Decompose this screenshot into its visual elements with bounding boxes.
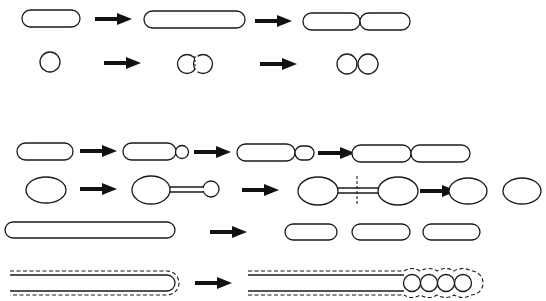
filament-releasing-cocci [248,269,483,298]
row-binary-fission-coccus [40,52,378,74]
short-rod-cell [423,224,480,240]
daughter-rod-cell [303,13,360,30]
rod-cell [123,143,176,160]
long-rod-cell [5,222,175,238]
rod-cell [237,144,295,161]
daughter-rod-cell [360,13,410,30]
rod-cell [22,10,80,27]
arrow-icon [242,184,279,196]
arrow-icon [210,226,247,238]
dividing-coccus [178,55,213,74]
daughter-rod-cell [352,145,411,162]
oval-cell [503,178,541,204]
arrow-icon [95,13,132,25]
arrow-icon [255,15,292,27]
daughter-coccus-cell [358,54,378,74]
enlarged-bud [295,146,314,160]
coccus-cell [404,275,421,292]
arrow-icon [104,57,141,69]
hyphal-cell-with-septum [298,176,418,206]
row-multiple-fission [5,222,480,240]
daughter-rod-cell [411,145,470,162]
row-budding-rod [17,143,470,162]
coccus-cell [40,52,60,72]
row-binary-fission-rod [22,10,410,30]
bud [176,146,189,159]
cell-with-hypha-and-bud [132,176,219,204]
short-rod-cell [352,224,410,240]
coccus-cell [438,275,455,292]
arrow-icon [194,146,231,158]
arrow-icon [318,147,355,159]
oval-cell [26,177,66,203]
coccus-cell [455,275,472,292]
rod-cell [17,143,73,160]
oval-cell [449,178,487,204]
row-budding-hyphal [26,176,541,206]
arrow-icon [195,277,232,289]
row-sheathed-filament [10,269,483,298]
short-rod-cell [285,224,337,240]
daughter-coccus-cell [337,54,357,74]
arrow-icon [80,145,117,157]
arrow-icon [80,183,117,195]
cell-division-diagram: Modes of bacterial cell division [0,0,546,301]
elongated-rod-cell [144,11,245,28]
sheathed-filament [10,271,179,295]
arrow-icon [260,58,297,70]
coccus-cell [421,275,438,292]
